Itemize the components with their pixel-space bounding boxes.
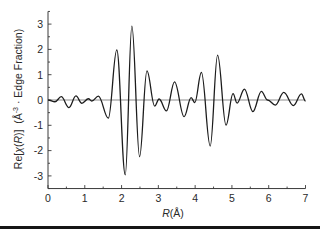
bottom-rule-divider <box>0 226 320 229</box>
x-tick-label: 0 <box>45 192 51 204</box>
exafs-plot: 01234567 -3-2-10123 R(Å) Re[χ(R)] (Å-3 ·… <box>0 0 320 234</box>
y-tick-label: -3 <box>34 170 43 182</box>
ylabel-part: · Edge Fraction) <box>12 29 24 107</box>
x-tick-label: 3 <box>155 192 161 204</box>
x-tick-label: 1 <box>82 192 88 204</box>
ylabel-part: Re[ <box>12 153 24 169</box>
y-tick-label: 0 <box>37 94 43 106</box>
x-tick-label: 4 <box>192 192 198 204</box>
y-tick-label: 3 <box>37 18 43 30</box>
data-series <box>48 26 306 175</box>
y-tick-label: -1 <box>34 119 43 131</box>
xlabel-part: (Å) <box>170 207 184 219</box>
chart-figure: 01234567 -3-2-10123 R(Å) Re[χ(R)] (Å-3 ·… <box>0 0 320 234</box>
x-tick-label: 5 <box>229 192 235 204</box>
y-tick-label: 2 <box>37 43 43 55</box>
y-tick-labels: -3-2-10123 <box>34 18 44 182</box>
x-tick-label: 6 <box>266 192 272 204</box>
x-tick-label: 2 <box>119 192 125 204</box>
ylabel-part: (Å <box>12 113 24 129</box>
y-axis-title: Re[χ(R)] (Å-3 · Edge Fraction) <box>12 29 24 169</box>
y-tick-label: -2 <box>34 144 43 156</box>
y-tick-label: 1 <box>37 69 43 81</box>
re-chi-r-curve <box>48 26 306 175</box>
x-tick-label: 7 <box>303 192 309 204</box>
x-axis-title: R(Å) <box>162 207 184 219</box>
x-tick-labels: 01234567 <box>45 192 309 204</box>
